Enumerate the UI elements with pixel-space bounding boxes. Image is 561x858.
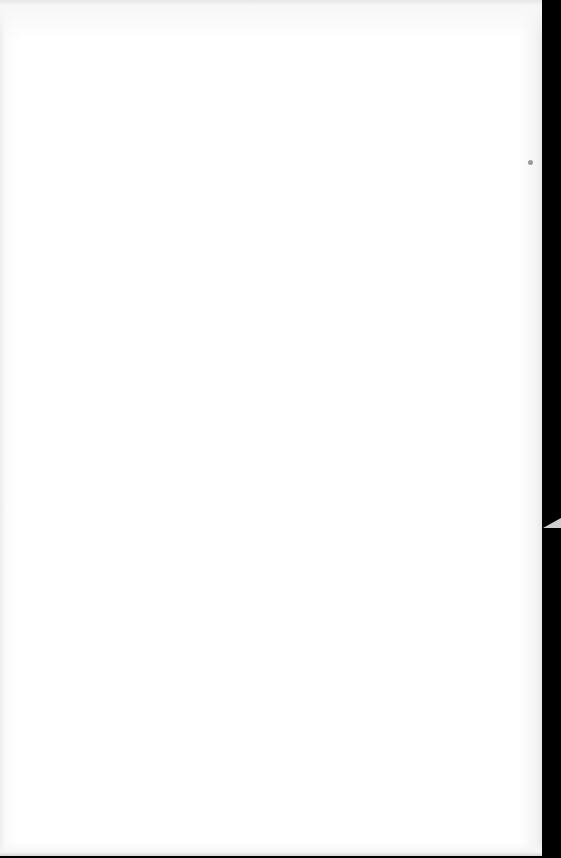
scan-edge-strip (542, 0, 561, 858)
blank-page (0, 0, 542, 856)
page-corner-fold (543, 518, 561, 528)
dust-speck (528, 160, 533, 165)
